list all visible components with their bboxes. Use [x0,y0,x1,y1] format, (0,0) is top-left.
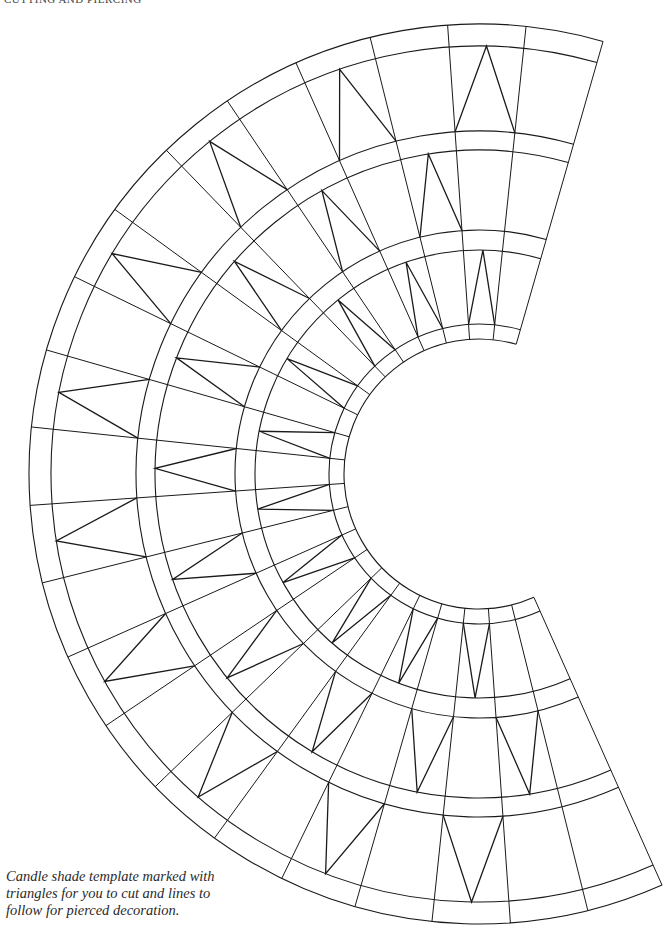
triangles [56,46,538,902]
radial-segment-line [46,350,349,437]
ring-arc [29,24,662,924]
radial-segment-line [355,604,442,907]
inner-band-cut-triangle [287,359,358,409]
radial-segment-line [432,608,465,921]
middle-band-cut-triangle [496,711,538,794]
outer-band-cut-triangle [56,498,146,557]
figure-caption: Candle shade template marked with triang… [6,868,266,919]
radial-segment-line [227,101,403,362]
ring-arc [51,46,653,902]
ring-arc [329,324,540,624]
inner-band-cut-triangle [283,535,355,583]
outer-band-cut-triangle [59,379,149,438]
outer-band-cut-triangle [455,46,515,133]
radial-segment-line [155,568,382,787]
ring-arc [155,150,611,798]
middle-band-cut-triangle [420,154,462,237]
outer-band-cut-triangle [198,712,277,797]
radial-segment-line [512,605,588,911]
radial-segment-line [516,41,603,344]
radial-segment-line [42,507,348,583]
candle-shade-template-diagram [0,0,670,951]
radial-lines [30,25,662,923]
radial-segment-line [448,25,470,339]
caption-line-1: Candle shade template marked with [6,868,266,885]
outer-band-cut-triangle [339,69,396,160]
outer-band-cut-triangle [105,614,195,682]
radial-segment-line [68,529,356,657]
radial-segment-line [370,37,446,343]
outer-band-cut-triangle [112,254,201,324]
outer-band-cut-triangle [443,815,503,902]
inner-band-cut-triangle [469,250,495,325]
radial-segment-line [75,277,358,415]
ring-arc [136,131,619,817]
caption-line-2: triangles for you to cut and lines to [6,885,266,902]
ring-arc [344,339,534,609]
inner-band-cut-triangle [463,623,489,698]
inner-band-cut-triangle [259,431,335,458]
radial-segment-line [282,595,420,878]
radial-segment-line [493,26,526,339]
middle-band-cut-triangle [234,261,309,330]
middle-band-cut-triangle [227,610,303,677]
radial-segment-line [488,609,510,923]
outer-band-cut-triangle [210,141,288,227]
ring-arc [255,250,570,698]
inner-band-cut-triangle [406,262,443,337]
outer-band-cut-triangle [326,782,385,873]
radial-segment-line [30,483,344,505]
radial-segment-line [296,63,424,351]
middle-band-cut-triangle [155,449,236,492]
caption-line-3: follow for pierced decoration. [6,902,266,919]
radial-segment-line [534,597,662,885]
radial-segment-line [166,150,385,377]
ring-arcs [29,24,662,924]
inner-band-cut-triangle [399,609,438,683]
